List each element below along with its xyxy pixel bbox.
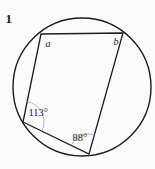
angle-label-a: a — [46, 38, 51, 49]
geometry-figure: 1 a b 113° 88° — [0, 0, 155, 169]
angle-label-113: 113° — [29, 107, 49, 118]
problem-number: 1 — [6, 11, 13, 26]
angle-label-88: 88° — [73, 132, 88, 143]
circle-diagram-svg: 1 a b 113° 88° — [0, 0, 155, 169]
angle-label-b: b — [114, 36, 119, 47]
